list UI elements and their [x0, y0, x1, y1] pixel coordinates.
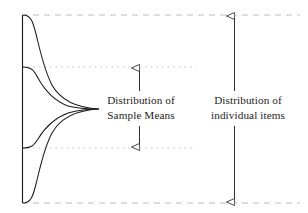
caption-individual-items-line1: Distribution of: [196, 93, 300, 108]
caption-sample-means: Distribution of Sample Means: [96, 93, 186, 123]
caption-individual-items: Distribution of individual items: [196, 93, 300, 123]
caption-individual-items-line2: individual items: [196, 108, 300, 123]
caption-sample-means-line1: Distribution of: [96, 93, 186, 108]
statistics-distribution-figure: Distribution of Sample Means Distributio…: [0, 0, 308, 213]
caption-sample-means-line2: Sample Means: [96, 108, 186, 123]
